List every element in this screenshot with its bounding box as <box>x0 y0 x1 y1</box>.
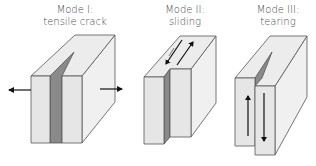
crack-face <box>164 69 170 144</box>
mode-3-block <box>235 36 307 155</box>
crack-modes-diagram <box>0 0 316 166</box>
mode-2-block <box>144 36 216 144</box>
